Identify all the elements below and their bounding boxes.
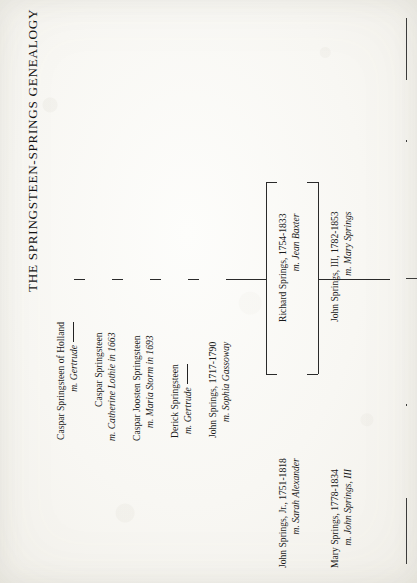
connector-gen2-gen3	[112, 279, 123, 280]
entry-gen1-person: Caspar Springsteen of Holland	[55, 322, 68, 440]
entry-child-john-jr: John Springs, Jr., 1751-1818 m. Sarah Al…	[277, 458, 302, 568]
bracket-arm-john-jr	[266, 374, 277, 375]
entry-child-richard-person: Richard Springs, 1754-1833	[277, 214, 290, 322]
entry-child-john-jr-spouse: m. Sarah Alexander	[290, 458, 303, 568]
connector-gen4-gen5	[188, 279, 199, 280]
entry-gen5-person: John Springs, 1717-1790	[207, 342, 220, 438]
entry-child-richard: Richard Springs, 1754-1833 m. Jean Baxte…	[277, 214, 302, 322]
bracket-arm-richard	[266, 182, 277, 183]
entry-gen4: Derick Springsteen m. Gertrude	[169, 364, 194, 438]
entry-gen1-spouse-line: m. Gertrude	[68, 322, 81, 440]
entry-gen2-person: Caspar Springsteen	[93, 333, 106, 441]
lineage-dash-icon	[187, 364, 188, 384]
entry-grandchild-john-iii-person: John Springs, III, 1782-1853	[329, 211, 342, 322]
connector-gen3-gen4	[150, 279, 161, 280]
entry-gen3-person: Caspar Joosten Springsteen	[131, 335, 144, 441]
entry-gen5: John Springs, 1717-1790 m. Sophia Gassow…	[207, 342, 232, 438]
entry-gen3-spouse: m. Maria Storm in 1693	[144, 335, 157, 441]
entry-child-john-jr-person: John Springs, Jr., 1751-1818	[277, 458, 290, 568]
page-edge-tick-upper	[406, 140, 407, 142]
connector-gen5-stem	[226, 279, 266, 280]
page-edge-tick-middle	[406, 278, 417, 279]
page-edge-rule-bottom	[406, 498, 407, 564]
entry-gen4-spouse: m. Gertrude	[182, 387, 193, 434]
bracket-arm-mary	[307, 374, 318, 375]
entry-gen1-spouse: m. Gertrude	[68, 345, 79, 392]
entry-grandchild-mary: Mary Springs, 1778-1834 m. John Springs,…	[329, 469, 354, 568]
entry-child-richard-spouse: m. Jean Baxter	[290, 214, 303, 322]
genealogy-chart-page: THE SPRINGSTEEN-SPRINGS GENEALOGY Caspar…	[0, 0, 417, 583]
page-title: THE SPRINGSTEEN-SPRINGS GENEALOGY	[24, 9, 41, 292]
connector-gen1-gen2	[74, 279, 85, 280]
bracket-arm-john-iii	[307, 182, 318, 183]
page-edge-rule-top	[406, 18, 407, 80]
bracket-grandchildren-spine	[318, 182, 319, 374]
entry-gen5-spouse: m. Sophia Gassoway	[220, 342, 233, 438]
entry-gen3: Caspar Joosten Springsteen m. Maria Stor…	[131, 335, 156, 441]
entry-gen4-spouse-line: m. Gertrude	[182, 364, 195, 438]
entry-grandchild-mary-spouse: m. John Springs, III	[342, 469, 355, 568]
entry-gen4-person: Derick Springsteen	[169, 364, 182, 438]
entry-grandchild-john-iii: John Springs, III, 1782-1853 m. Mary Spr…	[329, 211, 354, 322]
entry-gen1: Caspar Springsteen of Holland m. Gertrud…	[55, 322, 80, 440]
entry-gen2-spouse: m. Catherine Lothie in 1663	[106, 333, 119, 441]
bracket-children-spine	[266, 182, 267, 374]
lineage-dash-icon	[73, 322, 74, 342]
entry-grandchild-john-iii-spouse: m. Mary Springs	[342, 211, 355, 322]
entry-gen2: Caspar Springsteen m. Catherine Lothie i…	[93, 333, 118, 441]
entry-grandchild-mary-person: Mary Springs, 1778-1834	[329, 469, 342, 568]
page-edge-tick-lower	[406, 404, 407, 406]
